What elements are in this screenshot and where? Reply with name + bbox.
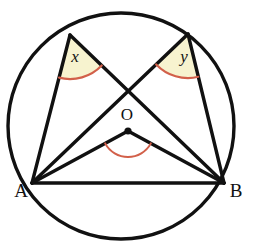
centre-point-dot: [124, 127, 131, 134]
angle-label-x: x: [70, 47, 79, 66]
circle-geometry-canvas: A B O x y: [0, 0, 256, 251]
figure-background: [0, 0, 256, 251]
point-label-a: A: [14, 180, 28, 201]
angle-label-y: y: [178, 47, 188, 66]
point-label-b: B: [230, 180, 243, 201]
centre-label-o: O: [121, 105, 133, 124]
geometry-figure: A B O x y: [0, 0, 256, 251]
